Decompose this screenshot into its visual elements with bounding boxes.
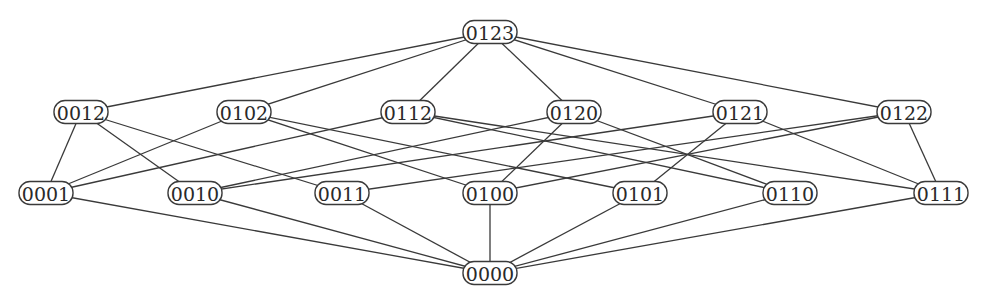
node-label: 0000 bbox=[466, 263, 514, 285]
node-label: 0100 bbox=[466, 183, 514, 205]
node-0122: 0122 bbox=[877, 101, 931, 125]
edge-0120-0110 bbox=[574, 112, 790, 193]
node-0112: 0112 bbox=[381, 101, 435, 125]
node-label: 0112 bbox=[384, 102, 432, 124]
node-0110: 0110 bbox=[763, 182, 817, 206]
node-label: 0010 bbox=[171, 183, 219, 205]
edge-0123-0121 bbox=[490, 32, 740, 112]
node-0100: 0100 bbox=[463, 182, 517, 206]
node-0102: 0102 bbox=[217, 101, 271, 125]
node-0010: 0010 bbox=[168, 182, 222, 206]
node-0120: 0120 bbox=[547, 101, 601, 125]
node-0123: 0123 bbox=[463, 21, 517, 45]
node-label: 0120 bbox=[550, 102, 598, 124]
edge-0001-0000 bbox=[46, 193, 490, 273]
node-label: 0111 bbox=[917, 183, 965, 205]
node-0011: 0011 bbox=[315, 182, 369, 206]
node-label: 0001 bbox=[22, 183, 70, 205]
node-0101: 0101 bbox=[613, 182, 667, 206]
edge-0123-0102 bbox=[244, 32, 490, 112]
edge-0011-0000 bbox=[342, 193, 490, 273]
node-0121: 0121 bbox=[713, 101, 767, 125]
node-0000: 0000 bbox=[463, 262, 517, 286]
node-label: 0121 bbox=[716, 102, 764, 124]
edge-0101-0000 bbox=[490, 193, 640, 273]
node-label: 0102 bbox=[220, 102, 268, 124]
partition-lattice-diagram: 0123001201020112012001210122000100100011… bbox=[0, 0, 987, 301]
edge-0111-0000 bbox=[490, 193, 941, 273]
node-label: 0110 bbox=[766, 183, 814, 205]
node-label: 0012 bbox=[57, 102, 105, 124]
edge-0123-0122 bbox=[490, 32, 904, 112]
node-0001: 0001 bbox=[19, 182, 73, 206]
node-0111: 0111 bbox=[914, 182, 968, 206]
node-label: 0101 bbox=[616, 183, 664, 205]
node-label: 0122 bbox=[880, 102, 928, 124]
node-label: 0123 bbox=[466, 22, 514, 44]
node-label: 0011 bbox=[318, 183, 366, 205]
edge-0123-0012 bbox=[81, 32, 490, 112]
edges-layer bbox=[46, 32, 941, 273]
node-0012: 0012 bbox=[54, 101, 108, 125]
nodes-layer: 0123001201020112012001210122000100100011… bbox=[19, 21, 968, 286]
